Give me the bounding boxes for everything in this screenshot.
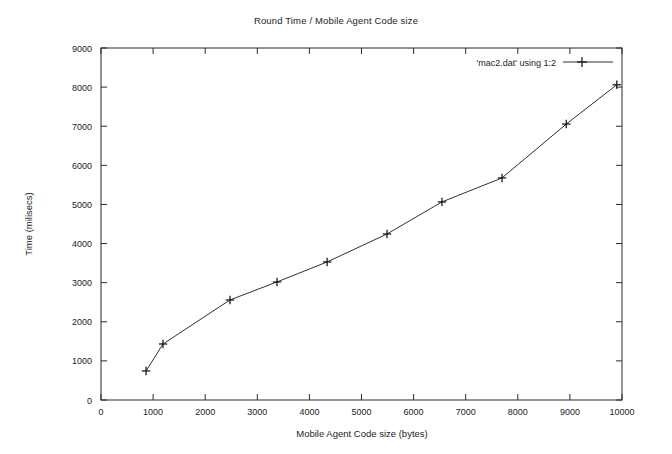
x-tick-label: 1000: [143, 407, 163, 417]
x-tick-label: 7000: [456, 407, 476, 417]
y-tick-label: 9000: [72, 44, 92, 54]
x-tick-label: 5000: [351, 407, 371, 417]
x-tick-label: 2000: [195, 407, 215, 417]
y-tick-label: 6000: [72, 161, 92, 171]
x-tick-label: 4000: [299, 407, 319, 417]
y-tick-label: 0: [87, 396, 92, 406]
x-tick-label: 0: [98, 407, 103, 417]
chart-figure: Round Time / Mobile Agent Code size 0100…: [0, 0, 672, 454]
x-tick-label: 6000: [404, 407, 424, 417]
chart-title: Round Time / Mobile Agent Code size: [254, 15, 418, 26]
x-tick-label: 10000: [609, 407, 634, 417]
y-tick-label: 5000: [72, 200, 92, 210]
y-tick-label: 7000: [72, 122, 92, 132]
y-tick-label: 1000: [72, 356, 92, 366]
y-tick-label: 8000: [72, 83, 92, 93]
y-tick-label: 3000: [72, 278, 92, 288]
x-tick-label: 9000: [560, 407, 580, 417]
x-tick-label: 3000: [247, 407, 267, 417]
x-axis-title: Mobile Agent Code size (bytes): [296, 428, 427, 439]
y-tick-label: 2000: [72, 317, 92, 327]
y-tick-label: 4000: [72, 239, 92, 249]
y-axis-title: Time (milisecs): [23, 192, 34, 256]
x-tick-label: 8000: [508, 407, 528, 417]
legend-entry-label: 'mac2.dat' using 1:2: [477, 58, 556, 68]
